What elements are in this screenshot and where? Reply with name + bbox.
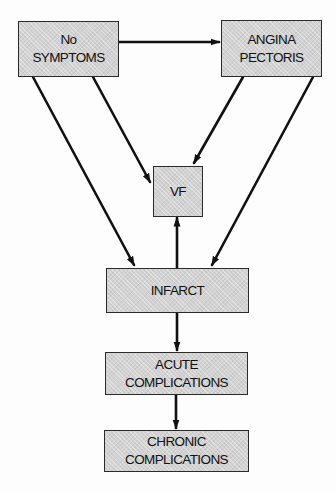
node-vf: VF bbox=[153, 166, 203, 217]
node-angina-pectoris: ANGINA PECTORIS bbox=[221, 20, 322, 77]
edge-no-symptoms-to-infarct bbox=[33, 77, 134, 265]
node-label: CHRONIC COMPLICATIONS bbox=[125, 433, 228, 469]
node-no-symptoms: No SYMPTOMS bbox=[18, 21, 119, 77]
node-label: ACUTE COMPLICATIONS bbox=[125, 356, 228, 392]
node-acute-complications: ACUTE COMPLICATIONS bbox=[105, 352, 248, 395]
edge-angina-to-vf bbox=[194, 77, 243, 163]
node-chronic-complications: CHRONIC COMPLICATIONS bbox=[104, 430, 249, 472]
flowchart-canvas: No SYMPTOMS ANGINA PECTORIS VF INFARCT A… bbox=[0, 0, 336, 491]
node-infarct: INFARCT bbox=[106, 268, 249, 313]
node-label: INFARCT bbox=[151, 282, 205, 300]
node-label: No SYMPTOMS bbox=[32, 31, 104, 67]
edge-no-symptoms-to-vf bbox=[93, 77, 150, 182]
node-label: VF bbox=[170, 183, 186, 201]
node-label: ANGINA PECTORIS bbox=[240, 31, 304, 67]
